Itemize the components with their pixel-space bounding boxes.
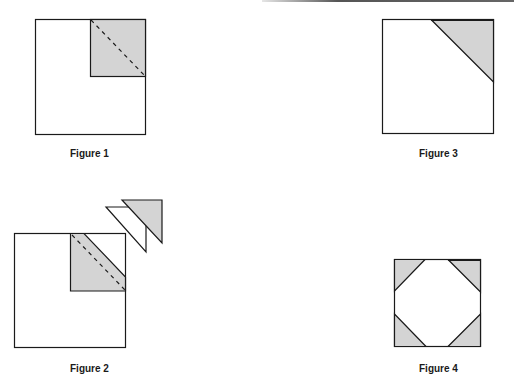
- figures-canvas: [0, 0, 514, 379]
- figure-3-diagram: [383, 20, 494, 134]
- figure-1-diagram: [36, 20, 146, 135]
- figure-4-diagram: [395, 260, 481, 347]
- figure-4-caption: Figure 4: [419, 363, 458, 374]
- figure-3-caption: Figure 3: [419, 148, 458, 159]
- figure-1-caption: Figure 1: [70, 148, 109, 159]
- figure-2-caption: Figure 2: [70, 363, 109, 374]
- figure-2-diagram: [15, 200, 163, 348]
